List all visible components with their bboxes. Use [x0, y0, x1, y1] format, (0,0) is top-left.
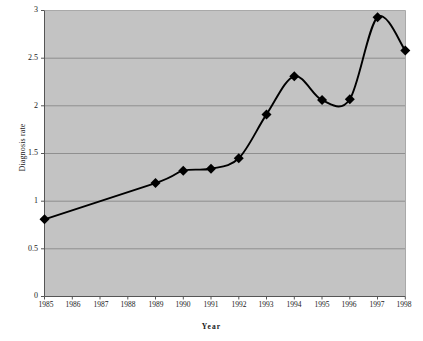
x-tick-label-1996: 1996 [342, 300, 357, 309]
x-tick-label-1991: 1991 [204, 300, 219, 309]
y-tick-label-2.5: 2.5 [28, 54, 38, 62]
x-tick-label-1998: 1998 [397, 300, 412, 309]
x-tick-label-1995: 1995 [315, 300, 330, 309]
y-axis-ticks [41, 11, 45, 297]
y-tick-label-1.5: 1.5 [28, 149, 38, 157]
y-tick-label-2: 2 [34, 102, 38, 110]
x-tick-label-1989: 1989 [149, 300, 164, 309]
x-tick-label-1988: 1988 [121, 300, 136, 309]
x-tick-label-1990: 1990 [176, 300, 191, 309]
y-tick-label-0.5: 0.5 [28, 245, 38, 253]
line-chart: 3 2.5 2 1.5 1 0.5 0 Diagnosis rate 1985 … [0, 0, 423, 341]
y-axis-title: Diagnosis rate [18, 93, 27, 203]
x-axis-title: Year [0, 322, 423, 331]
x-tick-label-1997: 1997 [370, 300, 385, 309]
y-tick-label-3: 3 [34, 6, 38, 14]
chart-plot-area [0, 0, 423, 341]
y-tick-label-0: 0 [34, 292, 38, 300]
y-tick-label-1: 1 [34, 197, 38, 205]
x-tick-label-1992: 1992 [232, 300, 247, 309]
x-tick-label-1986: 1986 [66, 300, 81, 309]
x-tick-label-1987: 1987 [94, 300, 109, 309]
x-tick-label-1994: 1994 [287, 300, 302, 309]
x-tick-label-1985: 1985 [39, 300, 54, 309]
x-tick-label-1993: 1993 [259, 300, 274, 309]
x-axis-tick-labels: 1985 1986 1987 1988 1989 1990 1991 1992 … [0, 300, 423, 314]
